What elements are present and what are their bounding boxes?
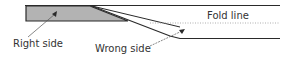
wrong-side-label: Wrong side bbox=[95, 43, 151, 54]
fold-diagram: Fold line Right side Wrong side bbox=[0, 0, 296, 57]
right-side-label: Right side bbox=[13, 38, 63, 49]
wrong-side-arrowhead-icon bbox=[179, 29, 185, 34]
wrong-side-pointer bbox=[150, 31, 182, 46]
flap-lower-line bbox=[92, 6, 280, 39]
fold-line-label: Fold line bbox=[207, 10, 249, 21]
